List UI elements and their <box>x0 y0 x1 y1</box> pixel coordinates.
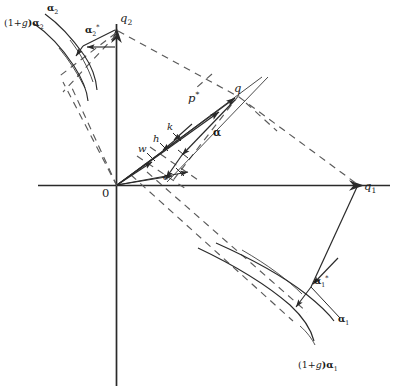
vector-diagram-figure: q2 q1 0 q p* α k h w c α2* α1* α2 α1 (1+… <box>0 0 394 391</box>
alpha1-curve-group <box>198 243 334 345</box>
point-q-label: q <box>234 83 241 95</box>
growth-alpha1-curve-label: (1+g)α1 <box>298 360 338 372</box>
x-axis-label: q1 <box>364 181 376 195</box>
point-w-label: w <box>138 144 147 154</box>
axes-group <box>38 24 390 386</box>
point-c-label: c <box>163 172 169 182</box>
alpha-vector <box>182 100 235 155</box>
point-h-label: h <box>153 134 159 144</box>
dashed-q2-to-q <box>118 31 239 97</box>
alpha1-star-vector-stem <box>311 187 357 287</box>
diagram-canvas <box>0 0 394 391</box>
point-k-label: k <box>167 122 173 132</box>
y-axis-label: q2 <box>120 13 132 27</box>
alpha2-tangent-curve-b <box>70 40 93 82</box>
alpha2-star-vector-drop <box>76 46 83 56</box>
alpha2-star-label: α2* <box>85 24 99 37</box>
dashed-tangent-at-q-lower <box>246 103 277 131</box>
growth-alpha2-curve <box>33 23 88 101</box>
growth-alpha2-curve-label: (1+g)α2 <box>4 18 44 30</box>
alpha1-star-vector-group <box>296 187 357 318</box>
alpha-vector-label: α <box>213 127 221 138</box>
origin-label: 0 <box>102 188 109 200</box>
point-p-star-label: p* <box>188 91 199 104</box>
alpha1-curve-label: α1 <box>338 314 349 326</box>
dashed-origin-downright-a <box>131 175 293 321</box>
dashed-origin-downright-b <box>147 172 307 312</box>
tick-alpha <box>178 150 188 158</box>
alpha-vector-group <box>163 100 235 178</box>
alpha2-curve-label: α2 <box>47 3 58 15</box>
dashed-construction-lines <box>57 31 357 321</box>
dashed-origin-upleft-a <box>63 82 117 186</box>
dashed-origin-upleft-b <box>72 88 117 186</box>
alpha1-star-label: α1* <box>314 275 328 288</box>
alpha1-tangent-curve-a <box>242 250 302 294</box>
dashed-q-to-q1 <box>239 97 357 184</box>
